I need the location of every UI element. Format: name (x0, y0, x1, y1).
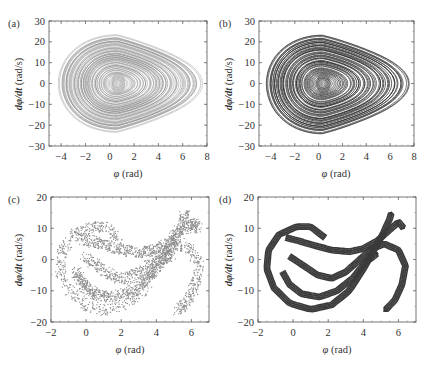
poincare-point (138, 255, 139, 256)
poincare-point (179, 228, 180, 229)
poincare-point (91, 257, 92, 258)
poincare-point (104, 299, 105, 300)
poincare-point (82, 282, 83, 283)
poincare-point (97, 270, 98, 271)
poincare-point (64, 285, 65, 286)
poincare-point (87, 258, 88, 259)
y-tick-label: 20 (37, 192, 48, 203)
poincare-point (94, 242, 95, 243)
poincare-point (82, 284, 83, 285)
poincare-point (87, 224, 88, 225)
poincare-point (71, 231, 72, 232)
poincare-point (112, 310, 113, 311)
poincare-point (110, 234, 111, 235)
poincare-point (200, 231, 201, 232)
poincare-point (73, 293, 74, 294)
poincare-point (110, 304, 111, 305)
poincare-point (62, 272, 63, 273)
poincare-point (189, 304, 190, 305)
poincare-point (111, 229, 112, 230)
poincare-point (196, 219, 197, 220)
poincare-point (199, 277, 200, 278)
poincare-point (125, 277, 126, 278)
poincare-point (136, 268, 137, 269)
poincare-point (110, 312, 111, 313)
poincare-point (106, 293, 107, 294)
poincare-point (138, 277, 139, 278)
poincare-point (90, 245, 91, 246)
poincare-point (171, 254, 172, 255)
poincare-point (109, 296, 110, 297)
poincare-point (117, 244, 118, 245)
poincare-point (79, 302, 80, 303)
poincare-point (97, 258, 98, 259)
poincare-point (140, 256, 141, 257)
poincare-point (149, 276, 150, 277)
poincare-point (99, 240, 100, 241)
poincare-point (175, 245, 176, 246)
poincare-point (142, 287, 143, 288)
poincare-point (105, 313, 106, 314)
poincare-point (194, 260, 195, 261)
poincare-point (124, 281, 125, 282)
poincare-point (184, 299, 185, 300)
poincare-point (135, 301, 136, 302)
poincare-point (94, 227, 95, 228)
poincare-point (83, 256, 84, 257)
poincare-point (189, 300, 190, 301)
poincare-point (178, 235, 179, 236)
poincare-point (146, 294, 147, 295)
poincare-point (147, 277, 148, 278)
poincare-point (93, 308, 94, 309)
poincare-point (120, 296, 121, 297)
poincare-point (192, 221, 193, 222)
poincare-point (103, 269, 104, 270)
poincare-point (139, 291, 140, 292)
poincare-point (154, 275, 155, 276)
poincare-point (170, 258, 171, 259)
poincare-point (189, 284, 190, 285)
poincare-point (179, 305, 180, 306)
poincare-point (197, 282, 198, 283)
poincare-point (59, 245, 60, 246)
panel-c: (c) −2024620100−10−20 φ (rad) dφ/dt (rad… (8, 192, 209, 357)
poincare-point (182, 224, 183, 225)
poincare-point (179, 309, 180, 310)
poincare-point (96, 299, 97, 300)
poincare-point (119, 298, 120, 299)
poincare-point (149, 274, 150, 275)
poincare-point (92, 257, 93, 258)
poincare-point (86, 262, 87, 263)
poincare-point (94, 235, 95, 236)
poincare-point (110, 243, 111, 244)
poincare-point (103, 244, 104, 245)
poincare-point (195, 220, 196, 221)
poincare-point (102, 242, 103, 243)
poincare-point (84, 310, 85, 311)
poincare-point (101, 295, 102, 296)
poincare-point (102, 245, 103, 246)
poincare-point (139, 254, 140, 255)
poincare-point (149, 250, 150, 251)
poincare-point (102, 243, 103, 244)
poincare-point (190, 289, 191, 290)
poincare-point (166, 241, 167, 242)
poincare-point (156, 276, 157, 277)
poincare-point (72, 299, 73, 300)
poincare-point (92, 289, 93, 290)
poincare-point (119, 282, 120, 283)
poincare-point (118, 306, 119, 307)
poincare-point (64, 266, 65, 267)
poincare-point (83, 272, 84, 273)
poincare-point (118, 292, 119, 293)
poincare-point (80, 267, 81, 268)
poincare-point (72, 269, 73, 270)
poincare-point (104, 312, 105, 313)
poincare-point (66, 254, 67, 255)
poincare-point (108, 304, 109, 305)
poincare-point (191, 227, 192, 228)
poincare-point (184, 302, 185, 303)
poincare-point (141, 267, 142, 268)
poincare-point (160, 244, 161, 245)
poincare-point (132, 297, 133, 298)
